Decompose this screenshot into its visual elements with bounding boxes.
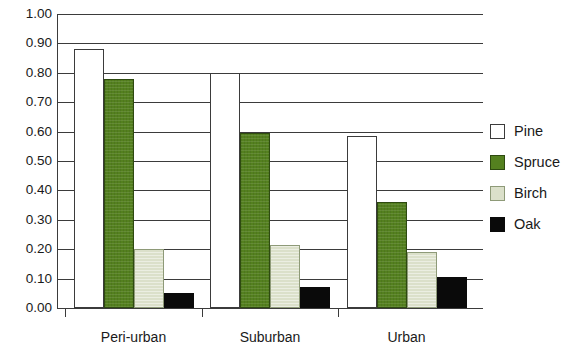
y-axis-line [57,14,58,308]
x-axis-label-suburban: Suburban [202,329,339,343]
y-axis-tick-label: 0.10 [6,272,52,286]
legend-label: Pine [514,124,543,139]
legend-item-birch: Birch [490,178,568,209]
legend-swatch-oak-icon [490,217,505,232]
legend-label: Birch [514,186,547,201]
y-axis: 1.000.900.800.700.600.500.400.300.200.10… [0,0,52,343]
y-axis-tick-label: 0.20 [6,242,52,256]
y-axis-tick-label: 0.90 [6,36,52,50]
bar-spruce-urban [377,202,407,308]
bar-oak-peri-urban [164,293,194,308]
legend-item-pine: Pine [490,116,568,147]
bar-birch-peri-urban [134,249,164,308]
y-axis-tick-label: 0.00 [6,301,52,315]
y-axis-tick-label: 0.60 [6,125,52,139]
bar-birch-suburban [270,245,300,308]
gridline [57,73,483,74]
legend-swatch-pine-icon [490,124,505,139]
legend: PineSpruceBirchOak [490,116,568,240]
bar-oak-suburban [300,287,330,308]
bar-pine-urban [347,136,377,308]
x-axis-tick [202,308,203,317]
legend-swatch-birch-icon [490,186,505,201]
bar-chart: 1.000.900.800.700.600.500.400.300.200.10… [0,0,568,343]
x-axis-line [57,308,483,309]
x-axis-label-peri-urban: Peri-urban [65,329,202,343]
y-axis-tick-label: 0.30 [6,213,52,227]
y-axis-tick-label: 0.80 [6,66,52,80]
bar-spruce-suburban [240,133,270,308]
legend-label: Spruce [514,155,560,170]
legend-item-oak: Oak [490,209,568,240]
x-axis-tick [338,308,339,317]
legend-item-spruce: Spruce [490,147,568,178]
y-axis-tick-label: 0.40 [6,183,52,197]
gridline [57,14,483,15]
x-axis-label-urban: Urban [338,329,475,343]
bar-birch-urban [407,252,437,308]
x-axis-tick [65,308,66,317]
plot-area: Peri-urbanSuburbanUrban [57,14,483,308]
legend-swatch-spruce-icon [490,155,505,170]
y-axis-tick-label: 0.70 [6,95,52,109]
bar-oak-urban [437,277,467,308]
bar-spruce-peri-urban [104,79,134,308]
gridline [57,43,483,44]
y-axis-tick-label: 1.00 [6,7,52,21]
bar-pine-suburban [210,73,240,308]
legend-label: Oak [514,217,541,232]
y-axis-tick-label: 0.50 [6,154,52,168]
bar-pine-peri-urban [74,49,104,308]
